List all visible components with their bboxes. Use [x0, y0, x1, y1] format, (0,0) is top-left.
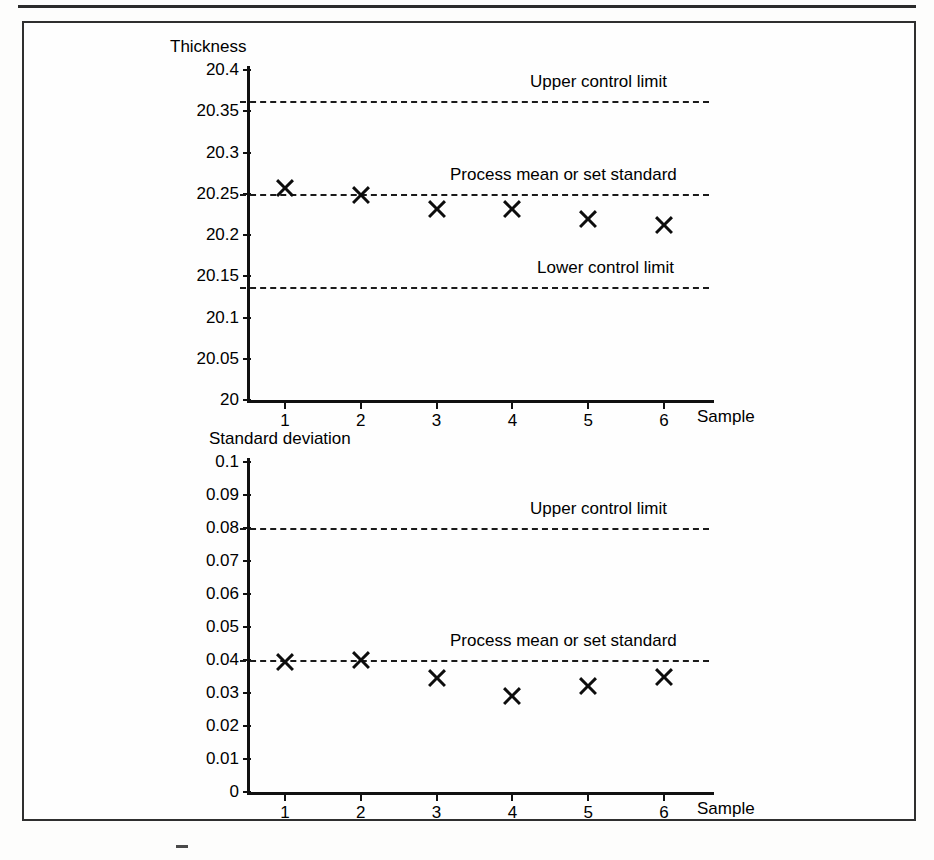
x-axis-tick-label: 5: [558, 412, 618, 429]
control-line-label: Process mean or set standard: [450, 632, 677, 649]
control-line: [240, 528, 709, 530]
x-axis-tick-label: 4: [482, 412, 542, 429]
y-axis-tick: [243, 152, 251, 154]
x-axis-tick: [436, 401, 438, 409]
y-axis-tick: [243, 461, 251, 463]
y-axis-tick-label: 0.05: [151, 618, 239, 635]
y-axis-tick-label: 0.09: [151, 486, 239, 503]
y-axis-tick-label: 20: [151, 391, 239, 408]
y-axis-tick-label: 0.07: [151, 552, 239, 569]
y-axis-tick: [243, 692, 251, 694]
y-axis-tick-label: 0.1: [151, 453, 239, 470]
y-axis-tick-label: 0.02: [151, 717, 239, 734]
y-axis-tick-label: 0.08: [151, 519, 239, 536]
y-axis-tick-label: 20.4: [151, 61, 239, 78]
x-axis-tick: [511, 793, 513, 801]
x-axis-line: [247, 400, 714, 403]
y-axis-tick-label: 0.04: [151, 651, 239, 668]
y-axis-tick-label: 0.06: [151, 585, 239, 602]
y-axis-tick-label: 0: [151, 783, 239, 800]
stddev-control-chart: Standard deviation 00.010.020.030.040.05…: [0, 430, 934, 860]
y-axis-tick: [243, 593, 251, 595]
y-axis-tick: [243, 110, 251, 112]
control-line-label: Upper control limit: [530, 73, 667, 90]
x-axis-tick: [360, 401, 362, 409]
control-line: [240, 660, 709, 662]
data-point-marker: [653, 666, 675, 688]
x-axis-tick-label: 3: [407, 804, 467, 821]
data-point-marker: [350, 184, 372, 206]
data-point-marker: [653, 214, 675, 236]
x-axis-tick-label: 5: [558, 804, 618, 821]
y-axis-tick: [243, 234, 251, 236]
y-axis-tick: [243, 626, 251, 628]
control-line-label: Upper control limit: [530, 500, 667, 517]
data-point-marker: [274, 177, 296, 199]
data-point-marker: [426, 198, 448, 220]
data-point-marker: [501, 685, 523, 707]
thickness-x-axis-title: Sample: [697, 408, 755, 425]
x-axis-tick-label: 2: [331, 412, 391, 429]
control-line: [240, 287, 709, 289]
data-point-marker: [577, 208, 599, 230]
y-axis-tick-label: 20.1: [151, 309, 239, 326]
data-point-marker: [274, 651, 296, 673]
data-point-marker: [501, 198, 523, 220]
x-axis-tick-label: 6: [634, 804, 694, 821]
x-axis-tick: [663, 401, 665, 409]
x-axis-tick: [663, 793, 665, 801]
y-axis-tick-label: 20.3: [151, 144, 239, 161]
y-axis-tick: [243, 399, 251, 401]
y-axis-tick-label: 0.03: [151, 684, 239, 701]
data-point-marker: [350, 649, 372, 671]
thickness-control-chart: Thickness 2020.0520.120.1520.220.2520.32…: [0, 0, 934, 440]
control-line-label: Process mean or set standard: [450, 166, 677, 183]
y-axis-tick-label: 20.25: [151, 185, 239, 202]
x-axis-tick: [436, 793, 438, 801]
y-axis-tick: [243, 725, 251, 727]
y-axis-tick: [243, 275, 251, 277]
y-axis-tick-label: 0.01: [151, 750, 239, 767]
x-axis-line: [247, 792, 714, 795]
y-axis-tick: [243, 358, 251, 360]
x-axis-tick-label: 1: [255, 804, 315, 821]
control-line-label: Lower control limit: [537, 259, 674, 276]
x-axis-tick: [587, 401, 589, 409]
stddev-y-axis-title: Standard deviation: [209, 430, 351, 447]
y-axis-tick: [243, 317, 251, 319]
x-axis-tick-label: 2: [331, 804, 391, 821]
x-axis-tick-label: 4: [482, 804, 542, 821]
control-line: [240, 194, 709, 196]
x-axis-tick: [360, 793, 362, 801]
x-axis-tick: [284, 401, 286, 409]
y-axis-tick: [243, 494, 251, 496]
y-axis-tick-label: 20.35: [151, 102, 239, 119]
x-axis-tick: [587, 793, 589, 801]
stddev-plot-area: 00.010.020.030.040.050.060.070.080.090.1…: [247, 462, 702, 792]
thickness-plot-area: 2020.0520.120.1520.220.2520.320.3520.412…: [247, 70, 702, 400]
control-line: [240, 101, 709, 103]
y-axis-tick-label: 20.15: [151, 267, 239, 284]
x-axis-tick-label: 1: [255, 412, 315, 429]
y-axis-line: [247, 458, 250, 792]
x-axis-tick-label: 3: [407, 412, 467, 429]
stddev-x-axis-title: Sample: [697, 800, 755, 817]
x-axis-tick-label: 6: [634, 412, 694, 429]
y-axis-tick-label: 20.05: [151, 350, 239, 367]
x-axis-tick: [284, 793, 286, 801]
y-axis-tick: [243, 560, 251, 562]
y-axis-tick: [243, 69, 251, 71]
y-axis-tick-label: 20.2: [151, 226, 239, 243]
x-axis-tick: [511, 401, 513, 409]
data-point-marker: [426, 667, 448, 689]
y-axis-tick: [243, 758, 251, 760]
y-axis-tick: [243, 791, 251, 793]
y-axis-line: [247, 66, 250, 400]
data-point-marker: [577, 675, 599, 697]
thickness-y-axis-title: Thickness: [170, 38, 247, 55]
